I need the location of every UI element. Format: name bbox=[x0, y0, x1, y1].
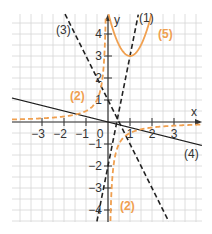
y-tick-label: −3 bbox=[88, 181, 102, 195]
y-tick-label: −2 bbox=[88, 159, 102, 173]
x-tick-label: −1 bbox=[75, 127, 89, 141]
x-tick-label: 1 bbox=[127, 127, 134, 141]
y-tick-label: 1 bbox=[95, 93, 102, 107]
y-axis-label: y bbox=[114, 13, 120, 27]
label-series-3: (3) bbox=[56, 23, 71, 37]
label-series-1: (1) bbox=[139, 11, 154, 25]
label-series-2-upper: (2) bbox=[70, 89, 85, 103]
x-tick-label: −3 bbox=[31, 127, 45, 141]
origin-label: 0 bbox=[97, 127, 104, 141]
x-axis-label: x bbox=[191, 105, 197, 119]
label-series-4: (4) bbox=[184, 147, 199, 161]
y-tick-label: 4 bbox=[95, 27, 102, 41]
x-tick-label: −2 bbox=[53, 127, 67, 141]
label-series-5: (5) bbox=[158, 27, 173, 41]
y-tick-label: −4 bbox=[88, 203, 102, 217]
x-tick-label: 3 bbox=[171, 127, 178, 141]
y-tick-label: 2 bbox=[95, 71, 102, 85]
label-series-2-lower: (2) bbox=[120, 199, 135, 213]
function-graph: −3−2−1123−4−3−2−112340xy(3)(1)(5)(2)(4)(… bbox=[0, 0, 212, 234]
labels: −3−2−1123−4−3−2−112340xy(3)(1)(5)(2)(4)(… bbox=[31, 11, 199, 217]
y-tick-label: 3 bbox=[95, 49, 102, 63]
x-tick-label: 2 bbox=[149, 127, 156, 141]
